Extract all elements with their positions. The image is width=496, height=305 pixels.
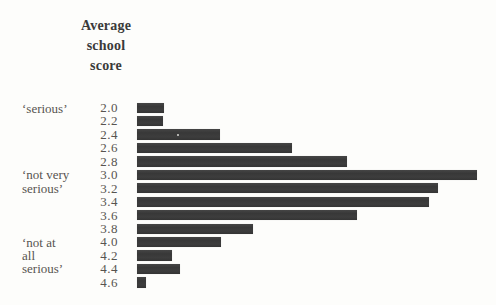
score-tick-label: 2.4 [80, 128, 118, 141]
chart-row: 3.2 [80, 182, 477, 195]
category-label-serious: ‘serious’ [22, 102, 68, 115]
score-tick-label: 4.2 [80, 249, 118, 262]
bar-2.6 [137, 143, 292, 153]
bar-4.6 [137, 277, 146, 287]
chart-row: 4.0 [80, 235, 477, 248]
chart-row: 2.6 [80, 141, 477, 154]
score-tick-label: 4.6 [80, 276, 118, 289]
bar-rows: 2.0 2.2 2.4 2.6 2.8 3.0 3.2 3.4 [80, 101, 477, 289]
bar-2.2 [137, 116, 163, 126]
score-tick-label: 2.8 [80, 155, 118, 168]
bar-4.2 [137, 250, 172, 260]
chart-row: 3.8 [80, 222, 477, 235]
score-tick-label: 3.6 [80, 209, 118, 222]
print-speck [177, 134, 179, 136]
score-tick-label: 2.2 [80, 114, 118, 127]
score-tick-label: 2.6 [80, 141, 118, 154]
histogram-figure: Average school score ‘serious’ ‘not very… [0, 0, 496, 305]
chart-row: 2.0 [80, 101, 477, 114]
score-tick-label: 3.4 [80, 195, 118, 208]
score-tick-label: 3.2 [80, 182, 118, 195]
bar-3.2 [137, 183, 438, 193]
category-label-not-at-all-line3: serious’ [22, 262, 63, 275]
bar-4.4 [137, 264, 180, 274]
bar-3.6 [137, 210, 357, 220]
chart-row: 3.4 [80, 195, 477, 208]
category-label-not-very-line1: ‘not very [22, 168, 69, 181]
chart-row: 2.8 [80, 155, 477, 168]
axis-title-line-3: score [58, 56, 154, 76]
score-tick-label: 4.4 [80, 262, 118, 275]
chart-row: 4.2 [80, 249, 477, 262]
bar-4.0 [137, 237, 221, 247]
axis-title: Average school score [58, 16, 154, 76]
chart-row: 2.4 [80, 128, 477, 141]
chart-row: 3.0 [80, 168, 477, 181]
axis-title-line-1: Average [58, 16, 154, 36]
bar-3.8 [137, 224, 253, 234]
bar-2.8 [137, 156, 347, 166]
chart-row: 2.2 [80, 114, 477, 127]
chart-row: 4.4 [80, 262, 477, 275]
bar-3.4 [137, 197, 429, 207]
bar-2.0 [137, 103, 164, 113]
score-tick-label: 4.0 [80, 235, 118, 248]
score-tick-label: 2.0 [80, 101, 118, 114]
bar-3.0 [137, 170, 477, 180]
chart-row: 4.6 [80, 276, 477, 289]
category-label-not-very-line2: serious’ [22, 182, 63, 195]
chart-row: 3.6 [80, 209, 477, 222]
axis-title-line-2: school [58, 36, 154, 56]
score-tick-label: 3.0 [80, 168, 118, 181]
score-tick-label: 3.8 [80, 222, 118, 235]
